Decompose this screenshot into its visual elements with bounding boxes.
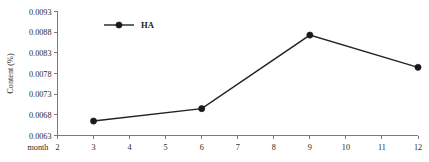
y-axis-title: Content (%) xyxy=(6,53,15,94)
line-chart: 0.00630.00680.00730.00780.00830.00880.00… xyxy=(0,0,429,162)
data-point-ha-12 xyxy=(415,64,421,70)
y-tick-label: 0.0073 xyxy=(29,90,52,99)
series-line-ha xyxy=(94,35,418,121)
y-tick-label: 0.0093 xyxy=(29,8,52,17)
y-tick-label: 0.0068 xyxy=(29,111,52,120)
legend-marker-sample xyxy=(116,22,122,28)
x-tick-label: 9 xyxy=(308,143,312,152)
x-tick-label: 11 xyxy=(378,143,386,152)
legend-label-ha: HA xyxy=(141,20,155,30)
x-tick-label: 10 xyxy=(342,143,350,152)
y-tick-label: 0.0063 xyxy=(29,132,52,141)
x-tick-label: 2 xyxy=(55,143,59,152)
y-tick-label: 0.0078 xyxy=(29,70,52,79)
axis-lines xyxy=(58,12,419,136)
x-tick-label: 8 xyxy=(272,143,276,152)
x-tick-label: 12 xyxy=(414,143,422,152)
chart-canvas: 0.00630.00680.00730.00780.00830.00880.00… xyxy=(0,0,429,162)
data-point-ha-3 xyxy=(90,118,96,124)
data-point-ha-6 xyxy=(199,106,205,112)
y-tick-label: 0.0088 xyxy=(29,28,52,37)
x-tick-label: 5 xyxy=(164,143,168,152)
x-axis-title: month xyxy=(28,143,49,152)
x-tick-label: 3 xyxy=(92,143,96,152)
y-tick-label: 0.0083 xyxy=(29,49,52,58)
data-point-ha-9 xyxy=(307,32,313,38)
x-tick-label: 4 xyxy=(128,143,132,152)
x-tick-label: 6 xyxy=(200,143,204,152)
x-tick-label: 7 xyxy=(236,143,240,152)
